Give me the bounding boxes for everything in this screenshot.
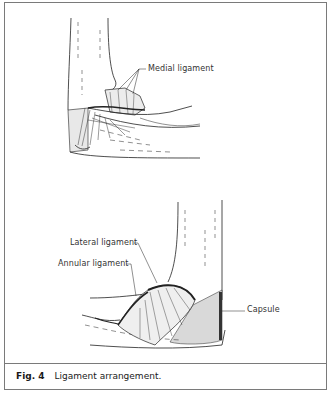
figure-number: Fig. 4	[16, 371, 45, 381]
figure-caption-text: Ligament arrangement.	[55, 371, 162, 381]
label-medial-ligament: Medial ligament	[148, 64, 214, 73]
figure-caption: Fig. 4Ligament arrangement.	[16, 371, 161, 381]
bottom-elbow-drawing	[82, 200, 245, 348]
caption-divider	[4, 363, 327, 364]
ligament-illustration	[0, 0, 334, 393]
label-annular-ligament: Annular ligament	[58, 259, 129, 268]
label-lateral-ligament: Lateral ligament	[70, 238, 137, 247]
top-elbow-drawing	[68, 18, 200, 158]
label-capsule: Capsule	[247, 305, 280, 314]
